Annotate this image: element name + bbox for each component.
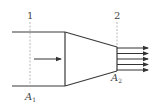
- section-2-label: 2: [114, 10, 120, 21]
- nozzle-diagram: 1 2 A1 A2: [0, 0, 156, 104]
- section-1-label: 1: [27, 10, 33, 21]
- nozzle-top-taper: [65, 32, 117, 47]
- area-2-label: A2: [110, 72, 122, 84]
- outlet-jet-arrows: [117, 48, 148, 70]
- nozzle-bottom-taper: [65, 71, 117, 86]
- area-1-label: A1: [24, 91, 36, 103]
- pipe-outline: [12, 32, 117, 86]
